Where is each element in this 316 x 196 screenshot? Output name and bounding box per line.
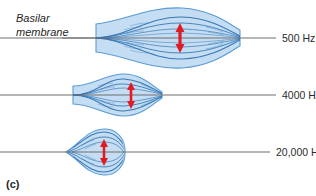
panel-label: (c) <box>6 178 20 190</box>
traveling-wave-diagram: 500 Hz <box>0 0 316 196</box>
basilar-membrane-label-line1: Basilar <box>16 12 51 24</box>
frequency-label-4000hz: 4000 Hz <box>282 89 316 101</box>
basilar-membrane-figure: 500 Hz <box>0 0 316 196</box>
frequency-label-20000hz: 20,000 Hz <box>276 146 316 158</box>
frequency-label-500hz: 500 Hz <box>282 32 315 44</box>
basilar-membrane-label-line2: membrane <box>16 26 69 38</box>
